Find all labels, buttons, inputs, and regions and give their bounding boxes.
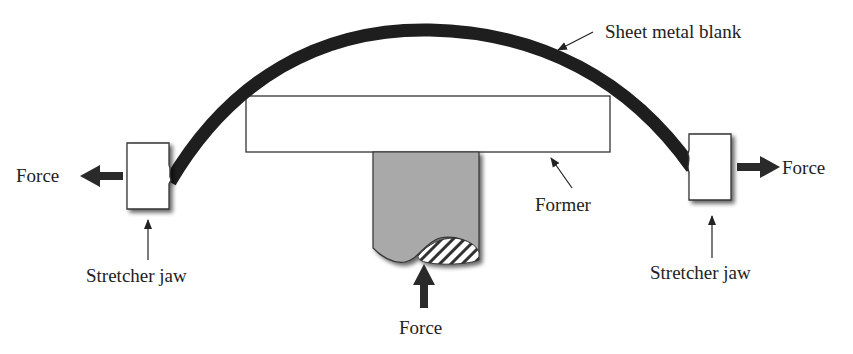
- label-stretcher-jaw-left: Stretcher jaw: [86, 266, 187, 285]
- stretcher-jaw-left: [127, 143, 171, 209]
- former: [246, 96, 610, 152]
- stretcher-jaw-right: [688, 134, 731, 200]
- ram-punch: [373, 152, 479, 264]
- label-force-right: Force: [782, 158, 825, 177]
- former-leader-arrow-icon: [551, 158, 572, 188]
- force-arrow-right-icon: [737, 156, 780, 178]
- label-force-left: Force: [16, 166, 59, 185]
- stretch-forming-diagram: [0, 0, 853, 354]
- force-arrow-left-icon: [80, 165, 123, 187]
- label-sheet-metal-blank: Sheet metal blank: [605, 22, 741, 41]
- label-stretcher-jaw-right: Stretcher jaw: [650, 263, 751, 282]
- force-arrow-up-icon: [413, 264, 435, 308]
- label-force-bottom: Force: [399, 318, 442, 337]
- sheet-leader-arrow-icon: [558, 32, 593, 50]
- label-former: Former: [535, 195, 591, 214]
